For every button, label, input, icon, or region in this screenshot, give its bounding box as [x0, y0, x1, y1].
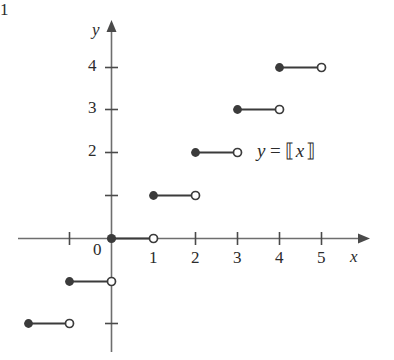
closed-endpoint-4-4: [275, 63, 284, 72]
closed-endpoint-3-3: [233, 105, 242, 114]
open-endpoint-5-4: [318, 64, 326, 72]
closed-endpoint-minus1-minus1: [65, 277, 74, 286]
x-tick-label-2: 2: [191, 248, 200, 268]
closed-endpoint-1-1: [149, 191, 158, 200]
floor-function-graph-figure: y x 0 4 3 2 1 1 2 3 4 5 y=⟦x⟧: [0, 0, 394, 360]
equation-close-bracket-icon: ⟧: [306, 140, 316, 161]
y-tick-label-1: 1: [0, 0, 9, 20]
y-tick-label-2: 2: [88, 141, 97, 161]
origin-label: 0: [93, 240, 102, 260]
x-tick-label-3: 3: [233, 248, 242, 268]
x-tick-label-5: 5: [317, 248, 326, 268]
equation-equals-sign: =: [270, 140, 281, 161]
open-endpoint-minus1-minus2: [66, 320, 74, 328]
y-axis-arrow-icon: [107, 20, 117, 32]
x-tick-label-1: 1: [149, 248, 158, 268]
open-endpoint-0-minus1: [108, 278, 116, 286]
function-equation-annotation: y=⟦x⟧: [257, 139, 315, 162]
closed-endpoint-minus2-minus2: [24, 319, 33, 328]
open-endpoint-3-2: [234, 149, 242, 157]
axes-group: [18, 20, 370, 352]
closed-endpoints-group: [24, 63, 284, 328]
equation-variable: x: [296, 140, 305, 161]
x-axis-label: x: [350, 247, 358, 267]
y-tick-label-4: 4: [88, 56, 97, 76]
plot-canvas: [0, 0, 394, 360]
open-endpoint-4-3: [276, 106, 284, 114]
equation-open-bracket-icon: ⟦: [285, 140, 295, 161]
closed-endpoint-0-0: [107, 234, 116, 243]
x-axis-arrow-icon: [358, 234, 370, 244]
open-endpoint-1-0: [150, 235, 158, 243]
closed-endpoint-2-2: [191, 148, 200, 157]
open-endpoints-group: [66, 64, 326, 328]
y-axis-label: y: [92, 20, 100, 40]
equation-lhs: y: [257, 140, 266, 161]
x-tick-label-4: 4: [275, 248, 284, 268]
open-endpoint-2-1: [192, 192, 200, 200]
y-tick-label-3: 3: [88, 98, 97, 118]
